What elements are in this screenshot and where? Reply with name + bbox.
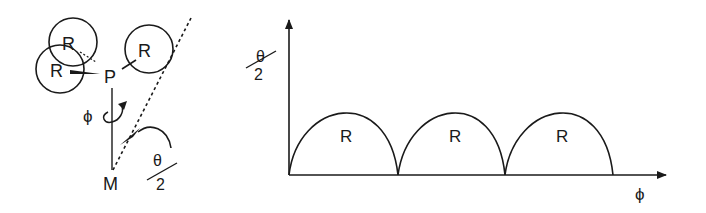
base-atom-label: M — [103, 174, 118, 194]
angle-denominator: 2 — [156, 176, 165, 193]
wedge-bond-left — [70, 70, 100, 74]
chart: θ 2 ϕ R R R — [246, 20, 666, 204]
rotation-arrow-icon — [104, 106, 123, 122]
angle-numerator: θ — [153, 152, 162, 169]
dotted-reference-line — [113, 18, 191, 170]
region-label-1: R — [340, 127, 352, 146]
circle-label-top: R — [62, 34, 75, 54]
y-axis-label-denominator: 2 — [254, 66, 263, 83]
circle-label-left: R — [50, 61, 63, 81]
rotation-label: ϕ — [83, 107, 93, 126]
circle-label-right: R — [138, 41, 151, 61]
region-label-2: R — [449, 127, 461, 146]
x-axis-label: ϕ — [635, 185, 645, 204]
y-axis-label-numerator: θ — [256, 48, 265, 65]
angle-arrowhead-icon — [120, 128, 140, 145]
molecule-diagram: R R R P ϕ M θ 2 — [36, 18, 191, 194]
region-label-3: R — [556, 127, 568, 146]
figure: R R R P ϕ M θ 2 θ 2 ϕ — [0, 0, 706, 213]
center-atom-label: P — [104, 67, 116, 87]
angle-arc-icon — [138, 127, 171, 148]
